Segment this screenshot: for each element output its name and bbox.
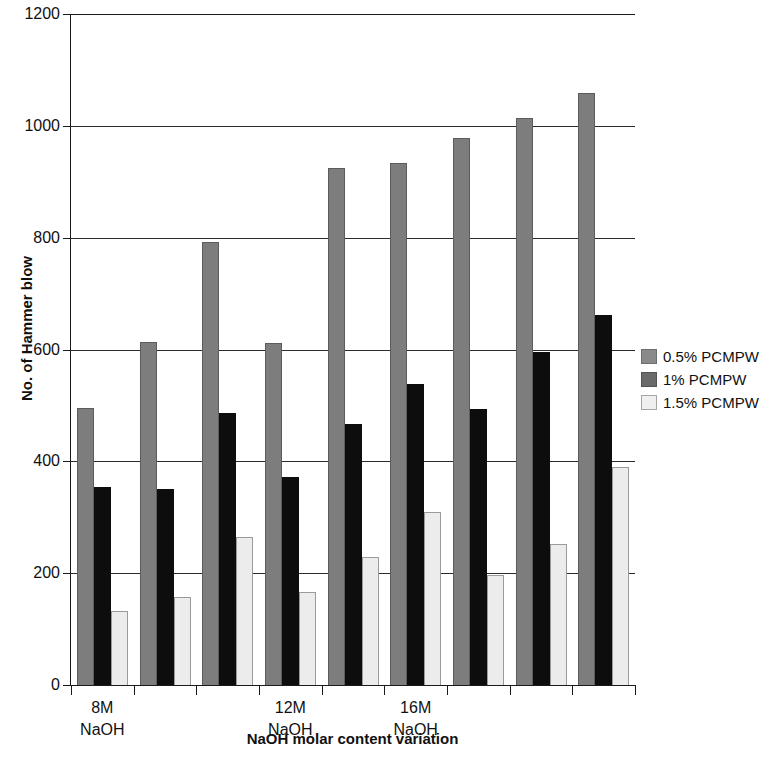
x-tick-mark (510, 685, 511, 695)
bar (282, 477, 299, 685)
y-tick-mark (63, 126, 71, 127)
bar-group (322, 14, 385, 685)
y-tick-label: 400 (33, 452, 60, 470)
bar (157, 489, 174, 685)
x-tick-mark (259, 685, 260, 695)
bar-group (134, 14, 197, 685)
bar (202, 242, 219, 685)
x-tick-mark (384, 685, 385, 695)
y-tick-label: 1200 (24, 5, 60, 23)
bar-group (572, 14, 635, 685)
bar (578, 93, 595, 685)
legend-swatch-icon (641, 395, 657, 410)
bar (453, 138, 470, 685)
bar (612, 467, 629, 685)
x-group-label-line1: 12M (275, 699, 306, 716)
legend-swatch-icon (641, 372, 657, 387)
bar (77, 408, 94, 685)
bar-group (384, 14, 447, 685)
y-tick-mark (63, 238, 71, 239)
x-group-label-line1: 8M (91, 699, 113, 716)
x-axis-title: NaOH molar content variation (70, 730, 635, 747)
x-tick-mark (196, 685, 197, 695)
bar (111, 611, 128, 685)
bar (362, 557, 379, 685)
y-tick-label: 1000 (24, 117, 60, 135)
plot-area: 020040060080010001200 8MNaOH12MNaOH16MNa… (70, 14, 635, 686)
y-tick-mark (63, 461, 71, 462)
bar-group (259, 14, 322, 685)
legend-label: 1% PCMPW (663, 371, 746, 388)
y-tick-label: 600 (33, 341, 60, 359)
y-tick-mark (63, 14, 71, 15)
y-tick-label: 800 (33, 229, 60, 247)
bar (487, 575, 504, 685)
bar (236, 537, 253, 685)
bar (470, 409, 487, 685)
bar-group (71, 14, 134, 685)
bar (328, 168, 345, 685)
bar (595, 315, 612, 685)
bar (94, 487, 111, 685)
x-tick-mark (572, 685, 573, 695)
bar (299, 592, 316, 685)
bar (550, 544, 567, 685)
x-group-label-line1: 16M (400, 699, 431, 716)
bar (345, 424, 362, 685)
bar (516, 118, 533, 685)
bar (407, 384, 424, 685)
legend-label: 0.5% PCMPW (663, 348, 759, 365)
bar (424, 512, 441, 685)
bar-groups (71, 14, 635, 685)
bar (219, 413, 236, 685)
x-tick-mark (134, 685, 135, 695)
legend-item: 1% PCMPW (641, 371, 759, 388)
y-tick-mark (63, 685, 71, 686)
legend-swatch-icon (641, 349, 657, 364)
y-axis-title: No. of Hammer blow (18, 229, 35, 429)
legend: 0.5% PCMPW1% PCMPW1.5% PCMPW (641, 348, 759, 411)
bar-group (196, 14, 259, 685)
legend-label: 1.5% PCMPW (663, 394, 759, 411)
bar (265, 343, 282, 685)
bar (533, 352, 550, 685)
bar (140, 342, 157, 685)
x-tick-mark (71, 685, 72, 695)
y-tick-label: 0 (51, 676, 60, 694)
y-tick-label: 200 (33, 564, 60, 582)
bar-group (447, 14, 510, 685)
bar-group (510, 14, 573, 685)
bar (390, 163, 407, 685)
bar (174, 597, 191, 685)
legend-item: 1.5% PCMPW (641, 394, 759, 411)
x-tick-mark (635, 685, 636, 695)
bar-chart: No. of Hammer blow 020040060080010001200… (0, 0, 760, 764)
legend-item: 0.5% PCMPW (641, 348, 759, 365)
y-tick-mark (63, 350, 71, 351)
x-tick-mark (322, 685, 323, 695)
y-tick-mark (63, 573, 71, 574)
x-tick-mark (447, 685, 448, 695)
